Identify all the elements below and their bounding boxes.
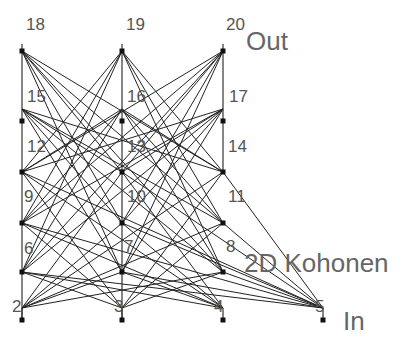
node-label-8: 8 — [226, 238, 235, 255]
network-diagram — [0, 0, 411, 355]
node-label-9: 9 — [24, 188, 33, 205]
node-7-marker — [120, 270, 125, 275]
node-label-18: 18 — [26, 16, 45, 33]
node-9-marker — [20, 221, 25, 226]
node-12-marker — [20, 170, 25, 175]
node-17-marker — [221, 119, 226, 124]
node-8-marker — [221, 270, 226, 275]
node-label-13: 13 — [127, 138, 146, 155]
node-13-marker — [120, 170, 125, 175]
node-19-marker — [120, 49, 125, 54]
node-4-marker — [221, 318, 226, 323]
node-label-10: 10 — [127, 188, 146, 205]
node-20-marker — [221, 49, 226, 54]
node-label-20: 20 — [226, 16, 245, 33]
node-label-11: 11 — [228, 188, 246, 205]
node-14-marker — [221, 170, 226, 175]
node-2-marker — [20, 318, 25, 323]
node-label-5: 5 — [315, 298, 324, 315]
node-label-12: 12 — [27, 138, 46, 155]
node-16-marker — [120, 119, 125, 124]
node-6-marker — [20, 270, 25, 275]
node-5-marker — [321, 318, 326, 323]
node-15-marker — [20, 119, 25, 124]
node-18-marker — [20, 49, 25, 54]
node-label-16: 16 — [127, 88, 146, 105]
node-label-4: 4 — [214, 298, 223, 315]
node-label-19: 19 — [126, 16, 145, 33]
layer-label-in: In — [343, 308, 365, 334]
edge-in-kohonen — [22, 172, 323, 308]
node-label-14: 14 — [228, 138, 247, 155]
node-3-marker — [120, 318, 125, 323]
node-10-marker — [120, 221, 125, 226]
node-label-17: 17 — [229, 88, 248, 105]
node-label-2: 2 — [12, 298, 21, 315]
layer-label-out: Out — [246, 28, 288, 54]
node-label-15: 15 — [27, 88, 46, 105]
node-label-7: 7 — [124, 238, 133, 255]
node-11-marker — [221, 221, 226, 226]
layer-label-2d-kohonen: 2D Kohonen — [244, 250, 389, 276]
node-label-6: 6 — [24, 240, 33, 257]
node-label-3: 3 — [114, 298, 123, 315]
